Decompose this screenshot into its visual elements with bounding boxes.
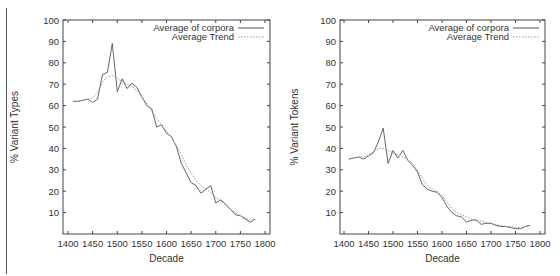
x-tick-label: 1550 [407, 238, 428, 249]
x-tick-label: 1650 [181, 238, 202, 249]
x-tick-label: 1600 [431, 238, 452, 249]
x-tick-label: 1500 [382, 238, 403, 249]
x-tick-label: 1450 [358, 238, 379, 249]
y-tick-label: 90 [325, 36, 336, 47]
y-tick-label: 90 [48, 36, 59, 47]
y-axis-label: % Variant Tokens [289, 89, 300, 166]
x-tick-label: 1400 [333, 238, 354, 249]
y-tick-label: 50 [48, 122, 59, 133]
x-axis-label: Decade [149, 253, 184, 264]
y-tick-label: 100 [320, 15, 336, 26]
x-tick-label: 1650 [456, 238, 477, 249]
y-tick-label: 10 [48, 207, 59, 218]
y-tick-label: 60 [48, 100, 59, 111]
legend-label-average-trend: Average Trend [447, 31, 509, 42]
y-tick-label: 30 [48, 164, 59, 175]
y-tick-label: 30 [325, 164, 336, 175]
x-tick-label: 1400 [57, 238, 78, 249]
x-tick-label: 1800 [529, 238, 550, 249]
y-tick-label: 80 [325, 57, 336, 68]
variant-tokens-chart: 1020304050607080901001400145015001550160… [280, 0, 560, 276]
y-tick-label: 70 [48, 79, 59, 90]
plot-frame [340, 20, 545, 234]
x-tick-label: 1500 [107, 238, 128, 249]
y-tick-label: 70 [325, 79, 336, 90]
y-tick-label: 40 [325, 143, 336, 154]
plot-frame [63, 20, 270, 234]
y-tick-label: 60 [325, 100, 336, 111]
x-tick-label: 1700 [205, 238, 226, 249]
legend-label-average-trend: Average Trend [172, 31, 234, 42]
variant-types-chart: 1020304050607080901001400145015001550160… [0, 0, 280, 276]
y-tick-label: 50 [325, 122, 336, 133]
x-tick-label: 1750 [230, 238, 251, 249]
series-average-of-corpora [73, 44, 255, 223]
x-tick-label: 1700 [480, 238, 501, 249]
series-average-trend [349, 148, 530, 227]
series-average-of-corpora [349, 128, 530, 229]
y-tick-label: 10 [325, 207, 336, 218]
y-tick-label: 20 [48, 186, 59, 197]
y-tick-label: 20 [325, 186, 336, 197]
x-tick-label: 1600 [156, 238, 177, 249]
y-tick-label: 100 [43, 15, 59, 26]
x-tick-label: 1750 [505, 238, 526, 249]
y-tick-label: 40 [48, 143, 59, 154]
y-axis-label: % Variant Types [9, 91, 20, 163]
x-tick-label: 1800 [254, 238, 275, 249]
x-tick-label: 1550 [131, 238, 152, 249]
x-tick-label: 1450 [82, 238, 103, 249]
x-axis-label: Decade [425, 253, 460, 264]
series-average-trend [73, 76, 255, 221]
y-tick-label: 80 [48, 57, 59, 68]
